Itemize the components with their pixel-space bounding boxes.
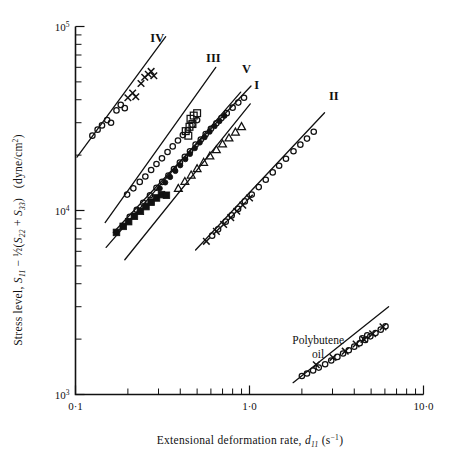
plot-fit-lines: [77, 37, 389, 383]
curve-label-II: II: [329, 89, 339, 103]
curve-label-IV: IV: [150, 31, 164, 45]
data-point-circle-open: [137, 179, 142, 184]
fit-line-IV: [77, 37, 166, 157]
data-point-circle-open: [291, 149, 296, 154]
curve-label-V: V: [242, 62, 251, 76]
data-point-circle-open: [175, 138, 180, 143]
data-point-circle-open: [122, 105, 127, 110]
curve-label-III: III: [206, 51, 221, 65]
data-point-circle-filled: [192, 146, 197, 151]
x-tick-label: 10·0: [413, 400, 434, 412]
x-axis-title-d-sub: 11: [311, 440, 319, 449]
y-axis-title-plus: +: [12, 216, 24, 229]
x-axis-units-sup: −1: [331, 433, 340, 442]
data-point-square-filled: [163, 192, 170, 199]
data-point-circle-open: [310, 368, 315, 373]
data-point-circle-filled: [202, 135, 207, 140]
y-axis-title: Stress level, S11 − ½(S22 + S33) (dyne/c…: [11, 134, 27, 346]
y-axis-units-close: ): [12, 134, 25, 138]
data-point-circle-open: [170, 144, 175, 149]
data-point-cross: [138, 80, 145, 87]
data-point-circle-filled: [217, 119, 222, 124]
x-tick-label: 1·0: [242, 400, 257, 412]
data-point-triangle-open: [174, 184, 182, 191]
data-point-circle-filled: [183, 157, 188, 162]
data-point-circle-filled: [157, 186, 162, 191]
data-point-circle-open: [143, 174, 148, 179]
y-tick-label: 104: [55, 204, 70, 217]
data-point-circle-open: [256, 184, 261, 189]
svg-text:Stress level, S11 − ½(S22 + S3: Stress level, S11 − ½(S22 + S33) (dyne/c…: [11, 134, 27, 346]
curve-label-I: I: [254, 78, 259, 92]
scatter-chart: 0·11·010·0 103104105 IIIIIIIVV Polybuten…: [0, 0, 455, 456]
y-axis-title-prefix: Stress level,: [12, 283, 25, 346]
data-point-circle-open: [148, 167, 153, 172]
y-axis-title-s33-sub: 33: [18, 202, 27, 211]
data-point-circle-filled: [173, 168, 178, 173]
figure-container: 0·11·010·0 103104105 IIIIIIIVV Polybuten…: [0, 0, 455, 456]
data-point-circle-open: [154, 161, 159, 166]
annotation-polybutene-oil: Polybutene oil: [292, 334, 344, 360]
data-point-circle-open: [304, 136, 309, 141]
data-point-circle-filled: [212, 124, 217, 129]
polybutene-oil-line2: oil: [312, 348, 324, 360]
data-point-circle-open: [165, 149, 170, 154]
data-point-circle-open: [114, 108, 119, 113]
data-point-circle-open: [311, 129, 316, 134]
data-point-circle-open: [283, 156, 288, 161]
y-axis-title-minus: −: [12, 256, 24, 269]
data-point-circle-open: [159, 156, 164, 161]
data-point-circle-filled: [187, 151, 192, 156]
data-point-circle-open: [322, 362, 327, 367]
y-axis-tick-labels: 103104105: [55, 20, 70, 401]
data-point-circle-filled: [222, 113, 227, 118]
y-tick-label: 105: [55, 20, 70, 33]
data-point-cross: [132, 93, 139, 100]
data-point-circle-open: [276, 163, 281, 168]
svg-text:Extensional deformation rate,: Extensional deformation rate, d11 (s−1): [157, 433, 344, 449]
data-point-circle-open: [270, 170, 275, 175]
data-point-circle-filled: [163, 180, 168, 185]
plot-data-markers: [90, 68, 389, 379]
x-axis-tick-labels: 0·11·010·0: [68, 400, 434, 412]
y-axis-title-half: ½: [12, 247, 24, 256]
data-point-circle-filled: [197, 140, 202, 145]
data-point-circle-open: [236, 100, 241, 105]
x-axis-units-open: (s: [319, 434, 331, 447]
data-point-square-filled: [113, 229, 120, 236]
data-point-circle-open: [131, 186, 136, 191]
x-axis-ticks: [76, 386, 424, 395]
data-point-circle-open: [298, 142, 303, 147]
data-point-triangle-open: [238, 123, 246, 130]
data-point-circle-open: [263, 177, 268, 182]
data-point-circle-filled: [168, 174, 173, 179]
x-axis-units-close: ): [339, 434, 343, 447]
x-axis-title-prefix: Extensional deformation rate,: [157, 434, 305, 447]
y-axis-units-open: (dyne/cm: [12, 142, 25, 188]
x-tick-label: 0·1: [68, 400, 83, 412]
y-axis-ticks: [76, 27, 85, 395]
data-point-circle-filled: [178, 163, 183, 168]
polybutene-oil-line1: Polybutene: [292, 334, 344, 347]
y-axis-title-s11-sub: 11: [18, 270, 27, 278]
x-axis-title: Extensional deformation rate, d11 (s−1): [157, 433, 344, 449]
y-axis-title-s22-sub: 22: [18, 229, 27, 237]
data-point-circle-filled: [207, 129, 212, 134]
data-point-circle-open: [241, 95, 246, 100]
